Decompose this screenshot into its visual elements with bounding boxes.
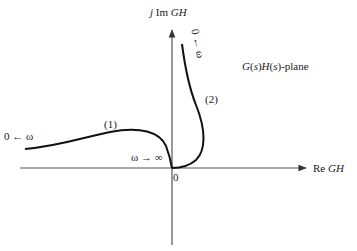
plane-title-g: G (242, 60, 250, 72)
imaginary-axis-prefix: Im (153, 6, 171, 18)
imaginary-axis-label: j Im GH (150, 7, 187, 18)
real-axis-label: Re GH (313, 163, 344, 174)
curve-2-label: (2) (205, 94, 218, 105)
real-axis-var: GH (328, 162, 344, 174)
plane-title: G(s)H(s)-plane (242, 61, 309, 72)
real-axis-prefix: Re (313, 162, 328, 174)
plot-canvas (0, 0, 357, 251)
origin-label: 0 (173, 172, 179, 183)
imaginary-axis-var: GH (171, 6, 187, 18)
plane-title-suffix: )-plane (277, 60, 308, 72)
curve-1-label: (1) (104, 119, 117, 130)
curve-2 (172, 44, 204, 168)
curve-1-start-label: 0 ← ω (4, 131, 33, 142)
curve-1-end-label: ω → ∞ (131, 152, 163, 163)
plane-title-h: H (262, 60, 270, 72)
